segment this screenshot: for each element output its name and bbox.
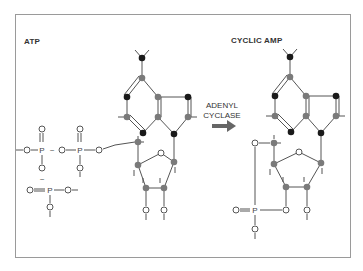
atp-phosphate-chain: P ~ P ~ P (16, 126, 115, 217)
svg-text:P: P (77, 146, 82, 155)
svg-text:P: P (47, 186, 52, 195)
atp-molecule (115, 50, 197, 220)
reaction-diagram: P ~ P ~ P (0, 0, 363, 271)
svg-text:~: ~ (50, 146, 55, 155)
svg-text:P: P (39, 146, 44, 155)
svg-text:~: ~ (40, 175, 45, 184)
svg-text:P: P (252, 206, 257, 215)
right-arrow-icon (212, 120, 236, 132)
atp-atoms (124, 55, 192, 213)
